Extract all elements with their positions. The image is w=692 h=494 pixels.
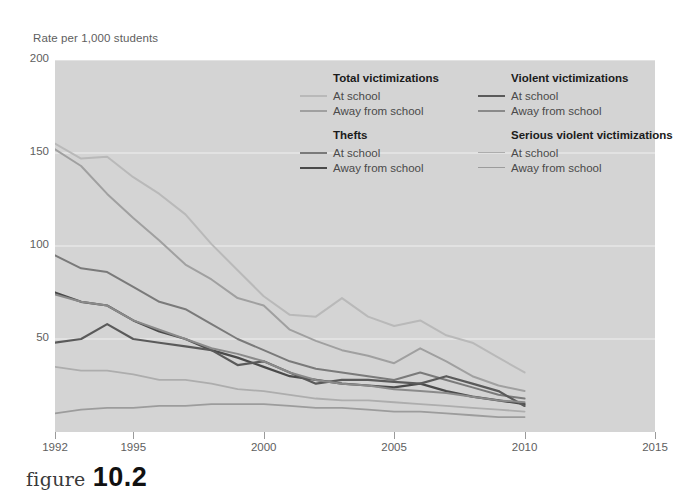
x-tick-label: 2010 <box>512 441 538 453</box>
legend-item-label: At school <box>333 147 380 159</box>
legend-item[interactable]: At school <box>478 145 656 160</box>
series-line <box>55 293 525 405</box>
legend-item[interactable]: At school <box>478 88 656 103</box>
y-tick-label: 200 <box>5 52 49 64</box>
legend-group-heading: Thefts <box>333 129 478 141</box>
x-tick-label: 2000 <box>251 441 277 453</box>
legend-line-swatch-icon <box>300 110 327 112</box>
x-tick-mark <box>55 432 56 439</box>
x-tick-mark <box>394 432 395 439</box>
legend-line-swatch-icon <box>478 167 505 168</box>
legend-item-label: At school <box>511 147 558 159</box>
x-tick-mark <box>264 432 265 439</box>
legend-group: Violent victimizationsAt schoolAway from… <box>478 72 656 118</box>
legend-item[interactable]: Away from school <box>478 103 656 118</box>
legend-group-heading: Total victimizations <box>333 72 478 84</box>
chart-legend: Total victimizationsAt schoolAway from s… <box>300 72 656 176</box>
figure-caption: figure 10.2 <box>26 462 147 493</box>
x-tick-label: 1995 <box>120 441 146 453</box>
x-axis: 199219952000200520102015 <box>0 432 692 462</box>
y-tick-label: 50 <box>5 331 49 343</box>
legend-group-heading: Violent victimizations <box>511 72 656 84</box>
legend-item-label: Away from school <box>333 105 424 117</box>
legend-line-swatch-icon <box>300 167 327 169</box>
legend-column-right: Violent victimizationsAt schoolAway from… <box>478 72 656 186</box>
legend-item-label: Away from school <box>511 162 602 174</box>
legend-group: Serious violent victimizationsAt schoolA… <box>478 129 656 175</box>
x-tick-label: 1992 <box>42 441 68 453</box>
x-tick-mark <box>655 432 656 439</box>
figure-container: Rate per 1,000 students 50100150200 1992… <box>0 0 692 494</box>
legend-item-label: Away from school <box>333 162 424 174</box>
legend-line-swatch-icon <box>478 110 505 112</box>
legend-item-label: Away from school <box>511 105 602 117</box>
x-tick-mark <box>525 432 526 439</box>
legend-item-label: At school <box>333 90 380 102</box>
legend-line-swatch-icon <box>300 152 327 154</box>
legend-group-heading: Serious violent victimizations <box>511 129 656 141</box>
figure-caption-word: figure <box>26 468 86 490</box>
legend-line-swatch-icon <box>478 152 505 153</box>
figure-caption-number: 10.2 <box>93 462 148 493</box>
legend-item[interactable]: At school <box>300 145 478 160</box>
series-line <box>55 294 525 402</box>
legend-line-swatch-icon <box>300 95 327 97</box>
y-tick-label: 150 <box>5 145 49 157</box>
x-tick-label: 2015 <box>642 441 668 453</box>
legend-item[interactable]: Away from school <box>300 103 478 118</box>
y-axis-title: Rate per 1,000 students <box>33 32 158 44</box>
legend-group: TheftsAt schoolAway from school <box>300 129 478 175</box>
legend-line-swatch-icon <box>478 95 505 97</box>
x-tick-label: 2005 <box>381 441 407 453</box>
legend-item[interactable]: Away from school <box>300 160 478 175</box>
y-axis: 50100150200 <box>0 0 49 494</box>
x-tick-mark <box>133 432 134 439</box>
legend-group: Total victimizationsAt schoolAway from s… <box>300 72 478 118</box>
legend-column-left: Total victimizationsAt schoolAway from s… <box>300 72 478 186</box>
legend-item[interactable]: Away from school <box>478 160 656 175</box>
legend-item[interactable]: At school <box>300 88 478 103</box>
y-tick-label: 100 <box>5 238 49 250</box>
legend-item-label: At school <box>511 90 558 102</box>
